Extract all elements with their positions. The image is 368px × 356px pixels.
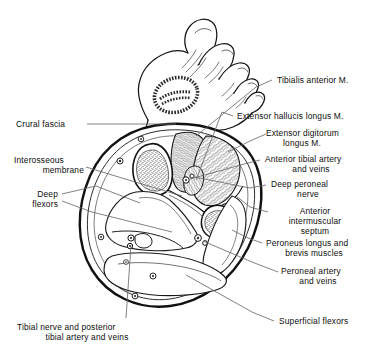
label-extensor-hallucis-longus: Extensor hallucis longus M. bbox=[237, 111, 343, 121]
anatomy-illustration bbox=[0, 0, 368, 356]
label-anterior-septum-line1: Anterior bbox=[273, 206, 357, 216]
label-interosseous-membrane-line1: Interosseous bbox=[14, 155, 84, 165]
label-tibial-nerve-vessels-line2: tibial artery and veins bbox=[17, 332, 157, 342]
anatomy-figure: Tibialis anterior M. Extensor hallucis l… bbox=[0, 0, 368, 356]
label-deep-peroneal-nerve-line1: Deep peroneal bbox=[271, 179, 328, 189]
label-anterior-septum-line3: septum bbox=[273, 226, 357, 236]
label-interosseous-membrane-line2: membrane bbox=[14, 165, 84, 175]
label-extensor-digitorum-longus-line1: Extensor digitorum bbox=[266, 128, 366, 138]
label-deep-flexors-line2: flexors bbox=[6, 199, 58, 209]
label-peroneal-vessels-line1: Peroneal artery bbox=[281, 266, 341, 276]
label-peroneus-muscles-line2: brevis muscles bbox=[266, 248, 362, 258]
label-deep-peroneal-nerve-line2: nerve bbox=[271, 189, 345, 199]
label-deep-flexors-line1: Deep bbox=[6, 189, 58, 199]
label-anterior-septum-line2: intermuscular bbox=[273, 216, 357, 226]
label-tibial-nerve-vessels-line1: Tibial nerve and posterior bbox=[17, 322, 157, 332]
label-extensor-digitorum-longus-line2: longus M. bbox=[266, 138, 338, 148]
leg-cross-section bbox=[80, 124, 262, 307]
label-peroneal-vessels-line2: and veins bbox=[281, 276, 355, 286]
label-superficial-flexors: Superficial flexors bbox=[279, 316, 348, 326]
label-anterior-tibial-vessels-line1: Anterior tibial artery bbox=[265, 154, 341, 164]
label-peroneus-muscles-line1: Peroneus longus and bbox=[266, 238, 348, 248]
label-crural-fascia: Crural fascia bbox=[16, 119, 84, 129]
label-tibialis-anterior: Tibialis anterior M. bbox=[277, 75, 348, 85]
label-anterior-tibial-vessels-line2: and veins bbox=[265, 164, 357, 174]
